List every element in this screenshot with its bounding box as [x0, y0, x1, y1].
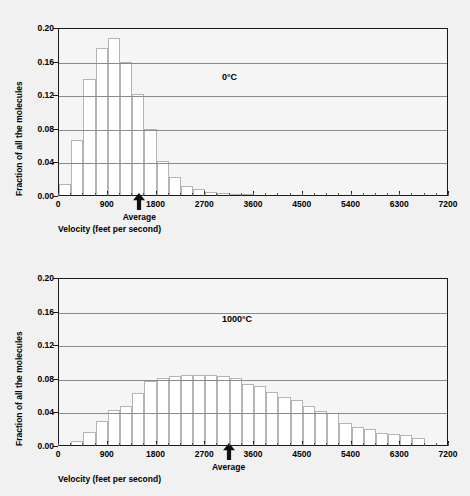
y-tick-mark	[53, 412, 58, 413]
x-minor-tick-mark	[448, 193, 449, 196]
bar-series-0c	[59, 29, 447, 195]
x-minor-tick-mark	[253, 443, 254, 446]
x-tick-label: 1800	[146, 449, 165, 459]
y-tick-mark	[53, 162, 58, 163]
y-tick-label: 0.04	[20, 157, 54, 167]
x-minor-tick-mark	[241, 443, 242, 446]
x-minor-tick-mark	[192, 443, 193, 446]
y-tick-label: 0.20	[20, 23, 54, 33]
bar	[193, 375, 205, 445]
y-tick-label: 0.16	[20, 57, 54, 67]
x-minor-tick-mark	[411, 193, 412, 196]
x-minor-tick-mark	[277, 193, 278, 196]
y-tick-mark	[53, 62, 58, 63]
y-tick-label: 0.08	[20, 374, 54, 384]
y-tick-mark	[53, 278, 58, 279]
x-minor-tick-mark	[70, 193, 71, 196]
bar	[315, 411, 327, 445]
x-tick-label: 4500	[292, 199, 311, 209]
plot-area-1000c	[58, 278, 448, 446]
x-tick-label: 900	[100, 199, 114, 209]
x-minor-tick-mark	[58, 193, 59, 196]
x-minor-tick-mark	[424, 443, 425, 446]
chart-0c: Fraction of all the molecules 0°C Averag…	[0, 6, 470, 246]
x-minor-tick-mark	[168, 193, 169, 196]
x-tick-label: 4500	[292, 449, 311, 459]
x-minor-tick-mark	[156, 193, 157, 196]
x-minor-tick-mark	[216, 443, 217, 446]
x-minor-tick-mark	[70, 443, 71, 446]
x-minor-tick-mark	[168, 443, 169, 446]
bar	[71, 140, 83, 195]
bar	[108, 410, 120, 445]
bar	[132, 94, 144, 195]
x-minor-tick-mark	[375, 193, 376, 196]
bar-series-1000c	[59, 279, 447, 445]
temperature-annotation-0c: 0°C	[222, 72, 237, 82]
x-axis-title-1000c: Velocity (feet per second)	[58, 474, 161, 484]
bar	[132, 393, 144, 445]
bar	[108, 38, 120, 195]
x-minor-tick-mark	[277, 443, 278, 446]
x-tick-label: 6300	[390, 199, 409, 209]
x-minor-tick-mark	[326, 193, 327, 196]
x-minor-tick-mark	[338, 443, 339, 446]
x-minor-tick-mark	[119, 193, 120, 196]
bar	[278, 397, 290, 445]
x-minor-tick-mark	[265, 193, 266, 196]
bar	[157, 161, 169, 195]
x-minor-tick-mark	[399, 443, 400, 446]
x-minor-tick-mark	[192, 193, 193, 196]
gridline	[59, 163, 447, 164]
average-label-0c: Average	[123, 212, 156, 222]
x-minor-tick-mark	[107, 193, 108, 196]
x-minor-tick-mark	[82, 443, 83, 446]
bar	[230, 378, 242, 445]
x-minor-tick-mark	[302, 443, 303, 446]
bar	[181, 375, 193, 445]
x-minor-tick-mark	[375, 443, 376, 446]
y-tick-mark	[53, 345, 58, 346]
gridline	[59, 413, 447, 414]
x-axis-title-0c: Velocity (feet per second)	[58, 224, 161, 234]
x-minor-tick-mark	[180, 193, 181, 196]
y-tick-mark	[53, 379, 58, 380]
gridline	[59, 380, 447, 381]
x-minor-tick-mark	[253, 193, 254, 196]
x-minor-tick-mark	[290, 193, 291, 196]
x-minor-tick-mark	[363, 443, 364, 446]
x-minor-tick-mark	[241, 193, 242, 196]
y-tick-label: 0.04	[20, 407, 54, 417]
x-tick-label: 6300	[390, 449, 409, 459]
y-tick-label: 0.20	[20, 273, 54, 283]
x-minor-tick-mark	[131, 443, 132, 446]
x-tick-label: 2700	[195, 199, 214, 209]
x-minor-tick-mark	[351, 443, 352, 446]
x-minor-tick-mark	[107, 443, 108, 446]
gridline	[59, 96, 447, 97]
x-minor-tick-mark	[58, 443, 59, 446]
bar	[303, 406, 315, 445]
y-tick-mark	[53, 446, 58, 447]
x-minor-tick-mark	[229, 443, 230, 446]
y-tick-label: 0.12	[20, 340, 54, 350]
x-minor-tick-mark	[448, 443, 449, 446]
x-minor-tick-mark	[338, 193, 339, 196]
x-tick-label: 1800	[146, 199, 165, 209]
bar	[327, 413, 339, 445]
x-tick-label: 0	[56, 199, 61, 209]
x-minor-tick-mark	[204, 193, 205, 196]
bar	[169, 376, 181, 445]
x-minor-tick-mark	[143, 443, 144, 446]
x-tick-label: 5400	[341, 199, 360, 209]
x-tick-label: 5400	[341, 449, 360, 459]
y-tick-mark	[53, 95, 58, 96]
x-minor-tick-mark	[119, 443, 120, 446]
chart-1000c: Fraction of all the molecules 1000°C Ave…	[0, 256, 470, 496]
x-minor-tick-mark	[326, 443, 327, 446]
y-tick-label: 0.08	[20, 124, 54, 134]
y-tick-label: 0.00	[20, 191, 54, 201]
x-minor-tick-mark	[399, 193, 400, 196]
x-minor-tick-mark	[387, 443, 388, 446]
bar	[120, 62, 132, 195]
